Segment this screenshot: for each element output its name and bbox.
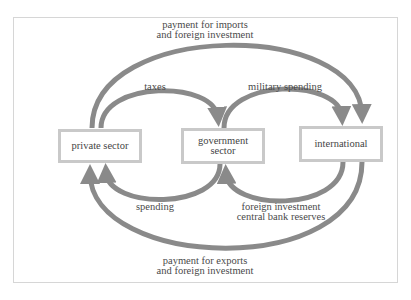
label-imports-line2: and foreign investment: [157, 29, 254, 40]
arrow-taxes: [101, 91, 218, 128]
arrow-spending: [106, 164, 220, 200]
arrow-military: [224, 89, 342, 128]
node-government-label-line2: sector: [210, 146, 235, 156]
node-international: international: [299, 126, 383, 162]
arrow-foreign: [226, 162, 343, 201]
node-international-label: international: [314, 139, 367, 149]
label-foreign: foreign investment central bank reserves: [226, 202, 336, 222]
label-exports: payment for exports and foreign investme…: [130, 256, 280, 276]
node-private-sector: private sector: [58, 129, 142, 163]
label-spending: spending: [125, 202, 185, 212]
node-private-sector-label: private sector: [72, 141, 129, 151]
label-military: military spending: [235, 82, 335, 92]
label-exports-line2: and foreign investment: [157, 265, 254, 276]
label-imports: payment for imports and foreign investme…: [130, 20, 280, 40]
label-taxes: taxes: [130, 82, 180, 92]
label-foreign-line2: central bank reserves: [237, 211, 326, 222]
node-government-sector: government sector: [181, 128, 265, 164]
